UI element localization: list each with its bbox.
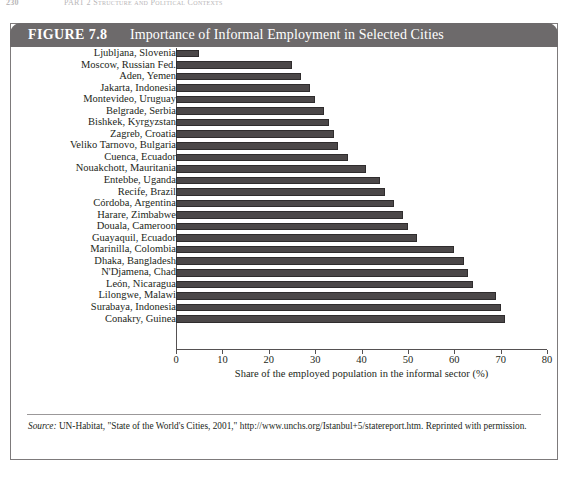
bar-row: León, Nicaragua: [11, 279, 557, 291]
bar-category-label: Harare, Zimbabwe: [97, 209, 176, 221]
bar-track: [176, 188, 548, 196]
bar-row: N'Djamena, Chad: [11, 267, 557, 279]
bar: [176, 177, 380, 185]
bar-category-label: Jakarta, Indonesia: [100, 82, 176, 94]
chart-plot-area: Ljubljana, SloveniaMoscow, Russian Fed.A…: [11, 48, 557, 423]
bar-track: [176, 257, 548, 265]
bar-track: [176, 177, 548, 185]
running-head: 230 PART 2 Structure and Political Conte…: [0, 0, 570, 9]
bar-track: [176, 84, 548, 92]
bar: [176, 165, 366, 173]
bar-track: [176, 50, 548, 58]
x-tick-label: 80: [542, 354, 553, 365]
bar-category-label: Marinilla, Colombia: [90, 243, 176, 255]
bar: [176, 223, 408, 231]
bar-row: Córdoba, Argentina: [11, 198, 557, 210]
figure-header: FIGURE 7.8 Importance of Informal Employ…: [10, 23, 558, 47]
x-tick-label: 30: [310, 354, 321, 365]
bar: [176, 188, 385, 196]
figure-title: Importance of Informal Employment in Sel…: [130, 27, 444, 43]
bar-track: [176, 107, 548, 115]
bar-category-label: Cuenca, Ecuador: [104, 151, 176, 163]
x-tick-label: 70: [495, 354, 506, 365]
bar-track: [176, 211, 548, 219]
bar-track: [176, 73, 548, 81]
bar-track: [176, 96, 548, 104]
bar-category-label: Ljubljana, Slovenia: [94, 47, 176, 59]
x-tick-label: 60: [449, 354, 460, 365]
bar-category-label: Douala, Cameroon: [97, 220, 176, 232]
bar-track: [176, 61, 548, 69]
bar-track: [176, 130, 548, 138]
bar-track: [176, 246, 548, 254]
bar: [176, 200, 394, 208]
bar-category-label: N'Djamena, Chad: [101, 266, 176, 278]
bar-track: [176, 304, 548, 312]
bar-category-label: Veliko Tarnovo, Bulgaria: [70, 139, 176, 151]
running-head-text: PART 2 Structure and Political Contexts: [64, 0, 223, 7]
bar-category-label: Recife, Brazil: [118, 186, 176, 198]
x-axis-title: Share of the employed population in the …: [176, 368, 547, 379]
bar-track: [176, 165, 548, 173]
bar: [176, 269, 468, 277]
bar: [176, 96, 315, 104]
bar-track: [176, 292, 548, 300]
figure-container: FIGURE 7.8 Importance of Informal Employ…: [10, 23, 558, 460]
bar: [176, 154, 348, 162]
bar-row: Moscow, Russian Fed.: [11, 60, 557, 72]
bar: [176, 257, 464, 265]
bar: [176, 107, 324, 115]
bar-track: [176, 119, 548, 127]
bar-category-label: Conakry, Guinea: [105, 313, 176, 325]
source-label: Source:: [28, 421, 57, 431]
source-text: UN-Habitat, "State of the World's Cities…: [57, 421, 527, 431]
bar-category-label: León, Nicaragua: [106, 278, 176, 290]
x-tick-label: 10: [217, 354, 228, 365]
bar-category-label: Bishkek, Kyrgyzstan: [88, 116, 176, 128]
bar-category-label: Lilongwe, Malawi: [98, 289, 176, 301]
x-tick-label: 40: [356, 354, 367, 365]
source-note: Source: UN-Habitat, "State of the World'…: [28, 420, 544, 433]
bar-category-label: Guayaquil, Ecuador: [92, 232, 176, 244]
bar-track: [176, 223, 548, 231]
bar-rows: Ljubljana, SloveniaMoscow, Russian Fed.A…: [11, 48, 557, 325]
x-tick-label: 0: [173, 354, 178, 365]
bar-category-label: Surabaya, Indonesia: [91, 301, 176, 313]
bar: [176, 50, 199, 58]
bar: [176, 292, 496, 300]
bar: [176, 304, 501, 312]
bar-category-label: Belgrade, Serbia: [106, 105, 176, 117]
bar-row: Dhaka, Bangladesh: [11, 256, 557, 268]
bar: [176, 119, 329, 127]
bar-track: [176, 142, 548, 150]
bar-track: [176, 234, 548, 242]
bar-row: Aden, Yemen: [11, 71, 557, 83]
bar-category-label: Moscow, Russian Fed.: [81, 59, 176, 71]
bar: [176, 142, 338, 150]
bar: [176, 130, 334, 138]
bar-row: Surabaya, Indonesia: [11, 302, 557, 314]
bar: [176, 211, 403, 219]
x-tick-label: 50: [403, 354, 414, 365]
bar-row: Conakry, Guinea: [11, 314, 557, 326]
page-folio: 230: [6, 0, 19, 7]
bar: [176, 281, 473, 289]
bar: [176, 234, 417, 242]
bar-track: [176, 154, 548, 162]
bar-category-label: Montevideo, Uruguay: [83, 93, 176, 105]
bar-row: Montevideo, Uruguay: [11, 94, 557, 106]
bar: [176, 73, 301, 81]
bar-track: [176, 200, 548, 208]
bar-category-label: Nouakchott, Mauritania: [76, 162, 176, 174]
bar-category-label: Zagreb, Croatia: [110, 128, 176, 140]
bar-track: [176, 315, 548, 323]
bar-row: Veliko Tarnovo, Bulgaria: [11, 140, 557, 152]
bar-row: Entebbe, Uganda: [11, 175, 557, 187]
bar-category-label: Entebbe, Uganda: [104, 174, 176, 186]
figure-number: FIGURE 7.8: [28, 27, 107, 43]
bar-category-label: Córdoba, Argentina: [93, 197, 176, 209]
bar-row: Harare, Zimbabwe: [11, 210, 557, 222]
bar: [176, 315, 505, 323]
bar-track: [176, 269, 548, 277]
source-rule: [27, 414, 541, 415]
